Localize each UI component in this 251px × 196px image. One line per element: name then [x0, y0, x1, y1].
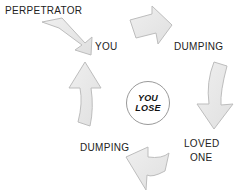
you-lose-line1: YOU: [138, 93, 158, 103]
arrow-dumping-to-lovedone: [197, 62, 233, 129]
label-perpetrator: PERPETRATOR: [5, 5, 82, 16]
label-loved-one-line2: ONE: [190, 152, 213, 163]
arrow-you-to-dumping: [130, 6, 172, 44]
label-dumping-bottom: DUMPING: [80, 142, 129, 153]
cycle-diagram: PERPETRATOR YOU DUMPING LOVED ONE DUMPIN…: [0, 0, 251, 196]
arrow-perpetrator-to-you: [42, 18, 92, 55]
label-you: YOU: [95, 41, 118, 52]
arrow-dumping-to-perpetrator: [69, 62, 101, 126]
arrow-lovedone-to-dumping: [126, 147, 169, 190]
you-lose-line2: LOSE: [135, 103, 160, 113]
you-lose-node: YOU LOSE: [126, 81, 170, 125]
label-dumping-top: DUMPING: [174, 41, 223, 52]
label-loved-one-line1: LOVED: [184, 138, 219, 149]
